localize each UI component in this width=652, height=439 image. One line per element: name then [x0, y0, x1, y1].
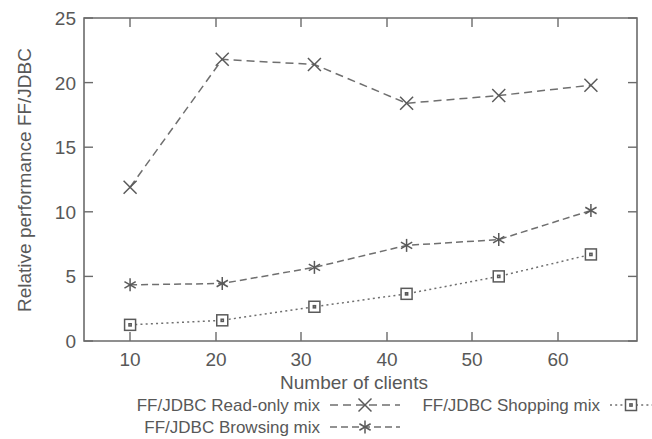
- relative-performance-line-chart: 25 20 15 10 5 0 10 20 30 40 50 60 Number…: [0, 0, 652, 439]
- x-tick-label: 40: [376, 349, 397, 370]
- legend-label-shopping: FF/JDBC Shopping mix: [422, 396, 600, 415]
- y-tick-label: 5: [65, 266, 76, 287]
- legend-label-browsing: FF/JDBC Browsing mix: [144, 418, 320, 437]
- data-point-marker: [585, 249, 596, 260]
- data-point-marker: [125, 319, 136, 330]
- y-tick-label: 0: [65, 331, 76, 352]
- x-tick-label: 20: [205, 349, 226, 370]
- y-tick-label: 20: [55, 73, 76, 94]
- y-tick-label: 15: [55, 137, 76, 158]
- x-tick-label: 30: [290, 349, 311, 370]
- legend-label-read-only: FF/JDBC Read-only mix: [137, 396, 321, 415]
- chart-figure: 25 20 15 10 5 0 10 20 30 40 50 60 Number…: [0, 0, 652, 439]
- x-tick-label: 10: [119, 349, 140, 370]
- x-tick-label: 50: [461, 349, 482, 370]
- y-tick-label: 10: [55, 202, 76, 223]
- data-point-marker: [493, 271, 504, 282]
- data-point-marker: [401, 288, 412, 299]
- data-point-marker: [626, 400, 637, 411]
- data-point-marker: [309, 301, 320, 312]
- data-point-marker: [217, 315, 228, 326]
- x-axis-title: Number of clients: [280, 372, 428, 393]
- x-tick-label: 60: [547, 349, 568, 370]
- y-tick-label: 25: [55, 8, 76, 29]
- y-axis-title: Relative performance FF/JDBC: [14, 48, 35, 312]
